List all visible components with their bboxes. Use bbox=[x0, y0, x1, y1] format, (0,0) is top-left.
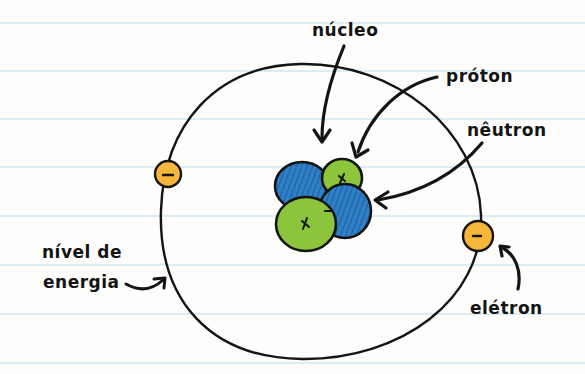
label-energy-level-line2: energia bbox=[43, 274, 120, 291]
label-proton: próton bbox=[446, 68, 513, 85]
label-energy-level-line1: nível de bbox=[42, 244, 122, 261]
notebook-paper: núcleo próton nêutron nível de energia e… bbox=[0, 0, 585, 374]
label-nucleus: núcleo bbox=[312, 22, 378, 39]
nucleus-arrow bbox=[314, 46, 344, 142]
electron-right bbox=[463, 221, 493, 251]
neutron-arrow bbox=[375, 143, 482, 208]
nucleus bbox=[275, 159, 371, 251]
electron-left bbox=[155, 161, 181, 187]
proton-arrow bbox=[352, 77, 437, 157]
label-neutron: nêutron bbox=[467, 122, 547, 139]
label-electron: elétron bbox=[470, 300, 543, 317]
electron-arrow bbox=[500, 246, 519, 289]
energy-level-arrow bbox=[126, 278, 165, 289]
